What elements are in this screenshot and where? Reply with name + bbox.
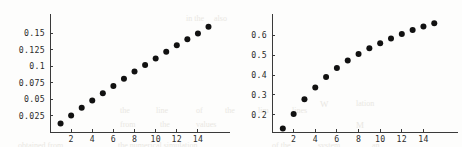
data-point — [110, 83, 116, 89]
data-point — [356, 51, 362, 57]
x-tick-label: 10 — [375, 134, 385, 144]
data-point — [163, 49, 169, 55]
x-tick-label: 12 — [172, 134, 182, 144]
data-point — [68, 113, 74, 119]
x-tick-label: 14 — [418, 134, 428, 144]
data-point — [100, 90, 106, 96]
data-point — [399, 31, 405, 37]
data-point — [388, 35, 394, 41]
data-point — [132, 69, 138, 75]
data-point — [301, 96, 307, 102]
x-tick-label: 14 — [193, 134, 203, 144]
y-tick-label: 0.3 — [251, 90, 267, 100]
data-point — [174, 42, 180, 48]
y-tick-label: 0.05 — [24, 94, 45, 104]
scatter-plot-panel-left: 24681012140.0250.050.0750.10.1250.15 — [0, 0, 231, 147]
x-tick-label: 2 — [69, 134, 74, 144]
data-point — [377, 40, 383, 46]
x-tick-label: 12 — [397, 134, 407, 144]
data-point — [58, 120, 64, 126]
y-tick-label: 0.1 — [29, 61, 45, 71]
y-tick-label: 0.075 — [19, 78, 45, 88]
two-panel-scatter-figure: in thealsothelineofthelimlinesfromtheval… — [0, 0, 462, 147]
x-tick-label: 6 — [111, 134, 116, 144]
scatter-plot-panel-right: 24681012140.20.30.40.50.6 — [231, 0, 462, 147]
x-tick-label: 10 — [150, 134, 160, 144]
data-point — [195, 30, 201, 36]
data-point — [345, 58, 351, 64]
y-tick-label: 0.2 — [251, 110, 267, 120]
data-point — [121, 76, 127, 82]
scatter-plot-left: 24681012140.0250.050.0750.10.1250.15 — [0, 0, 231, 147]
data-point — [153, 55, 159, 61]
data-point — [410, 27, 416, 33]
data-point — [312, 84, 318, 90]
y-tick-label: 0.5 — [251, 50, 267, 60]
x-tick-label: 4 — [90, 134, 95, 144]
scatter-plot-right: 24681012140.20.30.40.50.6 — [231, 0, 462, 147]
x-tick-label: 6 — [334, 134, 339, 144]
y-tick-label: 0.025 — [19, 111, 45, 121]
data-point — [420, 24, 426, 30]
data-point — [280, 125, 286, 131]
data-point — [89, 97, 95, 103]
x-tick-label: 2 — [291, 134, 296, 144]
data-point — [205, 24, 211, 30]
y-tick-label: 0.125 — [19, 45, 45, 55]
y-tick-label: 0.6 — [251, 30, 267, 40]
data-point — [323, 74, 329, 80]
data-point — [291, 111, 297, 117]
data-point — [79, 105, 85, 111]
x-tick-label: 4 — [313, 134, 318, 144]
x-tick-label: 8 — [356, 134, 361, 144]
x-tick-label: 8 — [132, 134, 137, 144]
data-point — [184, 36, 190, 42]
y-tick-label: 0.15 — [24, 28, 45, 38]
data-point — [142, 62, 148, 68]
y-tick-label: 0.4 — [251, 70, 267, 80]
data-point — [334, 65, 340, 71]
data-point — [431, 20, 437, 26]
data-point — [366, 45, 372, 51]
